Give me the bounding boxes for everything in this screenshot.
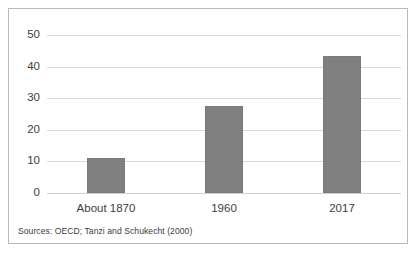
y-axis-tick-label: 50	[27, 29, 40, 41]
y-axis-tick-label: 40	[27, 61, 40, 73]
x-axis-tick-label-1: 1960	[211, 203, 237, 215]
x-axis-tick-label-2: 2017	[329, 203, 355, 215]
bar-1	[205, 106, 243, 193]
source-note: Sources: OECD; Tanzi and Schukecht (2000…	[18, 226, 192, 236]
bar-2	[323, 56, 361, 193]
y-axis-tick-label: 30	[27, 92, 40, 104]
plot-area: 50 40 30 20 10 0 About 1870 1960 2017	[47, 35, 401, 193]
chart-figure: 50 40 30 20 10 0 About 1870 1960 2017 So…	[0, 0, 417, 253]
y-axis-tick-label: 10	[27, 156, 40, 168]
y-axis-tick-label: 0	[34, 187, 40, 199]
bar-0	[87, 158, 125, 193]
gridline-50	[47, 35, 401, 36]
x-axis-tick-label-0: About 1870	[77, 203, 136, 215]
gridline-0	[47, 193, 401, 194]
chart-frame: 50 40 30 20 10 0 About 1870 1960 2017 So…	[8, 8, 408, 244]
y-axis-tick-label: 20	[27, 124, 40, 136]
